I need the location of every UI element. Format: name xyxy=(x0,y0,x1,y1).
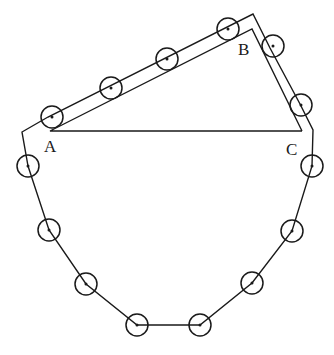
label-b: B xyxy=(238,40,249,59)
triangle-abc xyxy=(50,29,302,131)
outer-path xyxy=(22,14,313,325)
diagram-canvas: A B C xyxy=(0,0,334,355)
circles xyxy=(17,18,323,336)
label-a: A xyxy=(44,137,57,156)
label-c: C xyxy=(286,140,297,159)
